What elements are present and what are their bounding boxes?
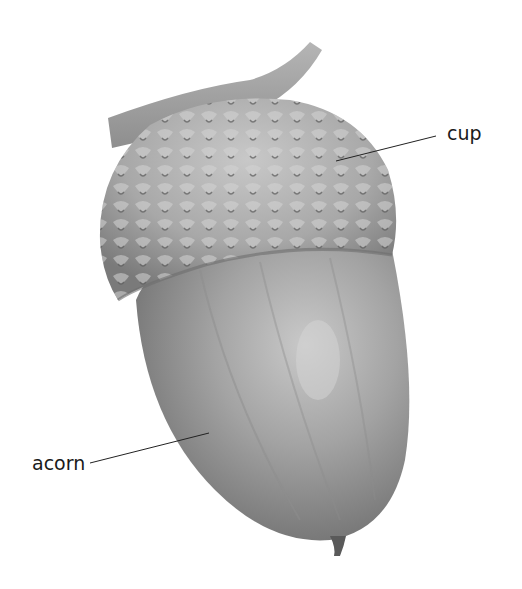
label-cup: cup <box>447 124 482 143</box>
acorn-nut <box>136 240 409 556</box>
acorn-diagram: cup acorn <box>0 0 522 589</box>
acorn-illustration <box>0 0 522 589</box>
label-acorn: acorn <box>32 454 85 473</box>
